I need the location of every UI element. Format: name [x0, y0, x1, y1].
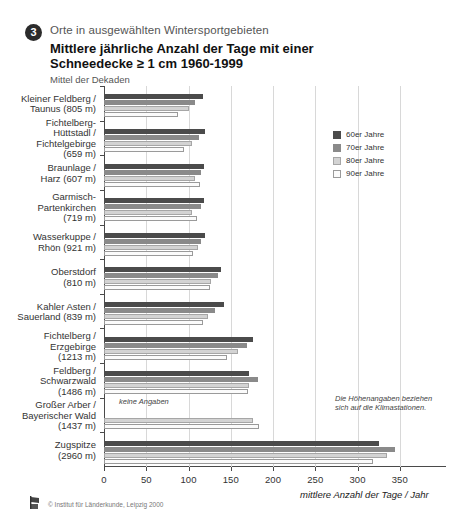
- bar-group: [104, 86, 442, 121]
- bar: [104, 164, 204, 169]
- y-axis-tick: [100, 155, 104, 156]
- y-axis-label-line: Partenkirchen: [37, 202, 96, 213]
- bar: [104, 204, 201, 209]
- y-axis-category-label: Fichtelberg /Erzgebirge(1213 m): [1, 331, 96, 363]
- bar: [104, 355, 227, 360]
- bar: [104, 182, 200, 187]
- bar-group: [104, 294, 442, 329]
- x-axis-tick: [146, 467, 147, 471]
- bar: [104, 377, 258, 382]
- bar: [104, 239, 201, 244]
- x-axis-tick: [315, 467, 316, 471]
- y-axis-label-line: Großer Arber /: [35, 399, 96, 410]
- y-axis-label-line: Fichtelberg-: [46, 117, 96, 128]
- x-axis-tick: [358, 467, 359, 471]
- bar: [104, 245, 198, 250]
- bar-group: [104, 363, 442, 398]
- title-line-1: Mittlere jährliche Anzahl der Tage mit e…: [50, 41, 314, 56]
- bar: [104, 198, 204, 203]
- legend-label: 80er Jahre: [346, 156, 384, 165]
- bar: [104, 141, 192, 146]
- bar: [104, 424, 259, 429]
- annotation-height-note: Die Höhenangaben beziehen sich auf die K…: [335, 394, 447, 412]
- x-axis-tick: [273, 467, 274, 471]
- y-axis-label-line: (1437 m): [58, 420, 96, 431]
- bar: [104, 106, 189, 111]
- bar: [104, 459, 373, 464]
- legend-swatch: [333, 144, 341, 152]
- y-axis-tick: [100, 294, 104, 295]
- y-axis-label-line: Wasserkuppe /: [33, 231, 96, 242]
- y-axis-label-line: Harz (607 m): [41, 173, 96, 184]
- y-axis-label-line: (810 m): [63, 277, 96, 288]
- x-axis-tick-label: 300: [350, 474, 366, 485]
- institute-logo-icon: [27, 495, 43, 511]
- y-axis-tick: [100, 86, 104, 87]
- page-title: Mittlere jährliche Anzahl der Tage mit e…: [50, 41, 440, 71]
- legend-swatch: [333, 170, 341, 178]
- bar: [104, 216, 197, 221]
- bar-group: [104, 225, 442, 260]
- y-axis-category-label: Garmisch-Partenkirchen(719 m): [1, 192, 96, 224]
- y-axis-tick: [100, 328, 104, 329]
- y-axis-tick: [100, 259, 104, 260]
- bar: [104, 170, 201, 175]
- y-axis-label-line: Kleiner Feldberg /: [21, 93, 96, 104]
- legend-swatch: [333, 157, 341, 165]
- x-axis-tick-label: 50: [141, 474, 152, 485]
- bar: [104, 100, 195, 105]
- bar: [104, 314, 208, 319]
- bar: [104, 129, 205, 134]
- y-axis-category-label: Feldberg /Schwarzwald(1486 m): [1, 366, 96, 398]
- bar: [104, 285, 210, 290]
- y-axis-label-line: (1213 m): [58, 351, 96, 362]
- y-axis-label-line: (1486 m): [58, 386, 96, 397]
- x-axis-tick: [104, 467, 105, 471]
- x-axis-tick-label: 0: [101, 474, 106, 485]
- bar-group: [104, 155, 442, 190]
- y-axis-label-line: (719 m): [63, 212, 96, 223]
- bar: [104, 453, 387, 458]
- bar: [104, 279, 211, 284]
- y-axis-label-line: Bayerischer Wald: [22, 410, 96, 421]
- x-axis-tick-label: 150: [223, 474, 239, 485]
- y-axis-label-line: Garmisch-: [52, 191, 96, 202]
- bar: [104, 233, 205, 238]
- bar: [104, 176, 195, 181]
- bar: [104, 210, 192, 215]
- y-axis-category-label: Braunlage /Harz (607 m): [1, 163, 96, 184]
- copyright-text: © Institut für Länderkunde, Leipzig 2000: [48, 501, 163, 508]
- y-axis-label-line: Kahler Asten /: [37, 301, 96, 312]
- y-axis-category-label: Kleiner Feldberg /Taunus (805 m): [1, 94, 96, 115]
- y-axis-tick: [100, 121, 104, 122]
- y-axis-category-label: Zugspitze(2960 m): [1, 440, 96, 461]
- annotation-keine-angaben: keine Angaben: [119, 397, 169, 406]
- bar: [104, 273, 218, 278]
- y-axis-tick: [100, 190, 104, 191]
- x-axis-tick-label: 350: [392, 474, 408, 485]
- bar: [104, 302, 224, 307]
- bar-group: [104, 121, 442, 156]
- legend-swatch: [333, 131, 341, 139]
- bar-group: [104, 190, 442, 225]
- bar: [104, 147, 184, 152]
- bar: [104, 441, 379, 446]
- bar: [104, 308, 215, 313]
- y-axis-label-line: Fichtelgebirge: [36, 138, 96, 149]
- bar: [104, 320, 203, 325]
- y-axis-category-label: Fichtelberg-Hüttstadl /Fichtelgebirge(65…: [1, 118, 96, 160]
- bar: [104, 418, 253, 423]
- bar: [104, 337, 253, 342]
- y-axis-label-line: (2960 m): [58, 450, 96, 461]
- bar: [104, 267, 221, 272]
- x-axis-title: mittlere Anzahl der Tage / Jahr: [300, 489, 429, 500]
- x-axis-tick: [189, 467, 190, 471]
- y-axis-label-line: Feldberg /: [53, 365, 96, 376]
- bar: [104, 112, 178, 117]
- bar-group: [104, 328, 442, 363]
- legend-label: 90er Jahre: [346, 169, 384, 178]
- y-axis-label-line: Erzgebirge: [50, 341, 96, 352]
- y-axis-tick: [100, 225, 104, 226]
- y-axis-label-line: Schwarzwald: [40, 375, 96, 386]
- bar: [104, 383, 249, 388]
